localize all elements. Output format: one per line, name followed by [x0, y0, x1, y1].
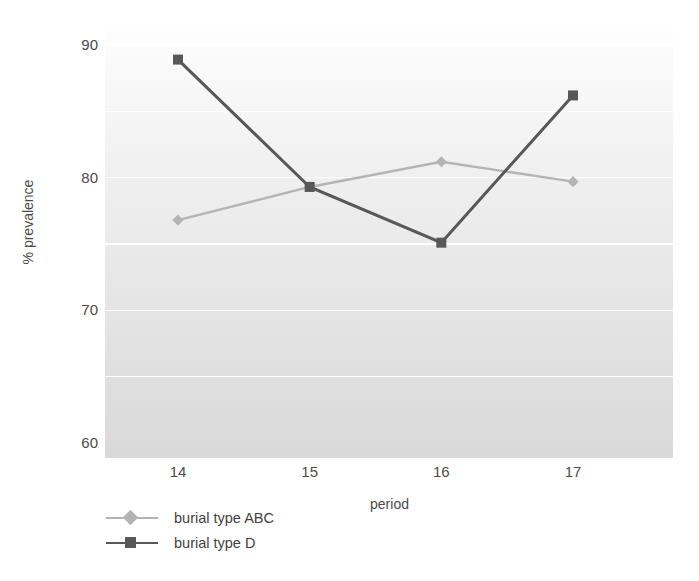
series-line-d — [178, 60, 573, 243]
series-layer — [105, 30, 673, 458]
x-tick-label: 16 — [411, 464, 471, 479]
data-point-marker-d — [173, 55, 183, 65]
legend-key-square-icon — [104, 534, 160, 552]
legend-label-d: burial type D — [174, 535, 255, 551]
x-tick-label: 14 — [148, 464, 208, 479]
y-axis-ticks: 60708090 — [40, 0, 98, 581]
y-tick-label: 60 — [54, 435, 98, 450]
y-tick-label: 90 — [54, 37, 98, 52]
data-point-marker-d — [305, 182, 315, 192]
legend-item-burial-type-abc: burial type ABC — [104, 505, 274, 530]
data-point-marker-abc — [567, 176, 578, 187]
legend-key-diamond-icon — [104, 509, 160, 527]
data-point-marker-abc — [436, 156, 447, 167]
x-tick-label: 17 — [543, 464, 603, 479]
data-point-marker-d — [568, 90, 578, 100]
y-axis-label: % prevalence — [20, 147, 36, 297]
legend-label-abc: burial type ABC — [174, 510, 274, 526]
y-tick-label: 80 — [54, 170, 98, 185]
data-point-marker-d — [436, 238, 446, 248]
chart-legend: burial type ABC burial type D — [104, 505, 274, 555]
y-tick-label: 70 — [54, 302, 98, 317]
series-line-abc — [178, 162, 573, 220]
x-tick-label: 15 — [280, 464, 340, 479]
line-chart: 60708090 14151617 period % prevalence bu… — [0, 0, 699, 581]
legend-item-burial-type-d: burial type D — [104, 530, 274, 555]
plot-area — [105, 30, 673, 458]
data-point-marker-abc — [172, 215, 183, 226]
